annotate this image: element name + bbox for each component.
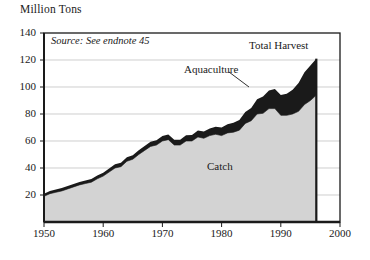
y-tick-label: 140 [6,27,36,38]
y-tick-label: 120 [6,54,36,65]
x-tick-label: 1990 [261,228,301,239]
source-note: Source: See endnote 45 [51,35,149,46]
x-tick-label: 1960 [83,228,123,239]
y-tick-label: 40 [6,162,36,173]
series-label-total-harvest: Total Harvest [249,39,308,51]
y-tick-label: 20 [6,189,36,200]
y-tick-label: 100 [6,81,36,92]
chart-figure: Million Tons Source: See endnote 45 Tota… [0,0,370,260]
series-label-aquaculture: Aquaculture [184,63,238,75]
y-tick-label: 60 [6,135,36,146]
data-areas [44,59,316,222]
y-tick-label: 80 [6,108,36,119]
x-tick-label: 1970 [142,228,182,239]
x-tick-label: 2000 [320,228,360,239]
series-label-catch: Catch [207,160,233,172]
x-tick-label: 1980 [202,228,242,239]
x-tick-label: 1950 [24,228,64,239]
